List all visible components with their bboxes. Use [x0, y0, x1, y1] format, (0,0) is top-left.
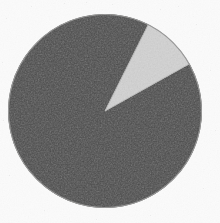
- pie-chart-figure: [0, 0, 220, 223]
- pie-chart-canvas: [0, 0, 220, 223]
- pie-slices-group: [9, 14, 202, 207]
